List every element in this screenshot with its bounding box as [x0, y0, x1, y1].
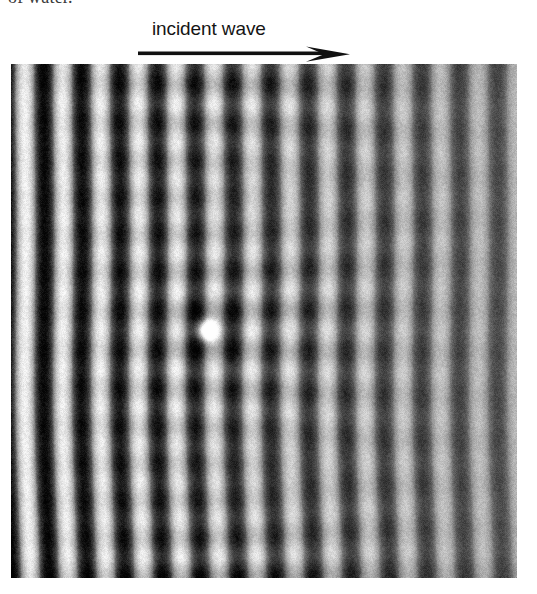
wave-photograph [11, 64, 517, 578]
incident-wave-annotation: incident wave [130, 18, 360, 62]
right-arrow-icon [138, 46, 350, 62]
caption-tail-text: of water. [8, 0, 73, 8]
wave-interference-canvas [11, 64, 517, 578]
caption-tail: of water. [8, 0, 108, 9]
page-root: of water. incident wave [0, 0, 537, 594]
incident-wave-label: incident wave [152, 18, 266, 40]
